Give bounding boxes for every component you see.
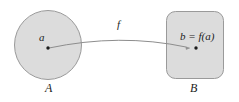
mapping-arrow-label-f: f (117, 19, 120, 30)
element-point-b (194, 46, 197, 49)
set-label-a: A (45, 82, 52, 94)
set-label-b: B (190, 82, 197, 94)
set-a-ellipse (15, 11, 82, 80)
diagram-canvas (0, 0, 239, 102)
element-point-a (46, 46, 49, 49)
element-label-a: a (39, 32, 45, 43)
function-mapping-figure: a f b = f(a) A B (0, 0, 239, 102)
element-label-b-equals-f-of-a: b = f(a) (180, 31, 214, 42)
